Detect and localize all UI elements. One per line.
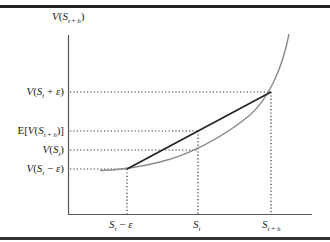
label-v-st-plus-eps: V(St + ε) <box>0 85 64 100</box>
label-v-st-minus-eps: V(St − ε) <box>0 162 64 177</box>
label-expected-v: E[V(St + h)] <box>0 124 64 139</box>
label-v-st: V(St) <box>0 143 64 158</box>
label-st-plus-h: St + h <box>262 218 280 233</box>
label-st-minus-eps: St − ε <box>109 218 133 233</box>
diagram-canvas <box>0 0 330 242</box>
y-axis-label: V(St + h) <box>52 10 84 25</box>
label-st: St <box>193 218 200 233</box>
